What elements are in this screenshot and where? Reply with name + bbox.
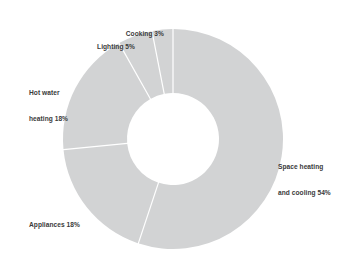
- slice-label-hot-water-heating-line1: Hot water: [29, 89, 109, 98]
- slice-label-lighting-line1: Lighting 5%: [62, 43, 135, 52]
- donut-chart-figure: Cooking 3% Lighting 5% Hot water heating…: [0, 0, 363, 254]
- slice-label-space-heating-and-cooling: Space heating and cooling 54%: [278, 146, 360, 215]
- slice-label-space-heating-line1: Space heating: [278, 163, 360, 172]
- slice-label-appliances-line1: Appliances 18%: [29, 221, 114, 230]
- slice-label-appliances: Appliances 18%: [29, 204, 114, 247]
- slice-label-lighting: Lighting 5%: [62, 26, 135, 69]
- slice-label-hot-water-heating-line2: heating 18%: [29, 115, 109, 124]
- slice-label-hot-water-heating: Hot water heating 18%: [29, 72, 109, 141]
- slice-label-space-heating-line2: and cooling 54%: [278, 189, 360, 198]
